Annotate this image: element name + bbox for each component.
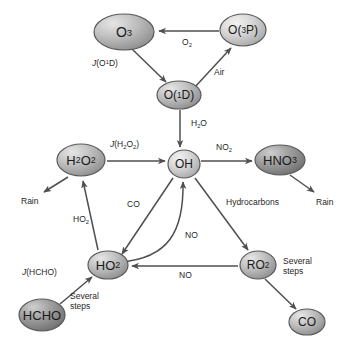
node-ro2 bbox=[240, 251, 276, 279]
edge-label-j-o1d: J(O1D) bbox=[92, 57, 118, 68]
edge-ro2-to-co bbox=[265, 279, 296, 309]
diagram-canvas bbox=[0, 0, 351, 354]
node-o1d bbox=[157, 81, 201, 109]
edge-label-co: CO bbox=[127, 199, 140, 209]
edge-label-several-steps-hcho: Severalsteps bbox=[70, 291, 99, 311]
node-oh bbox=[168, 150, 200, 178]
edge-o1d-to-o3p bbox=[194, 48, 231, 88]
edge-label-j-hcho: J(HCHO) bbox=[22, 267, 57, 277]
edge-oh-to-ro2 bbox=[195, 178, 248, 250]
edge-label-j-h2o2: J(H2O2) bbox=[110, 139, 139, 152]
edge-label-air: Air bbox=[214, 67, 224, 77]
chemistry-cycle-diagram: O3 O(3P) O(1D) H2O2 OH HNO3 HO2 RO2 HCHO… bbox=[0, 0, 351, 354]
edge-oh-to-ho2-co bbox=[122, 178, 173, 254]
edge-label-several-steps-ro2: Severalsteps bbox=[283, 256, 312, 276]
node-h2o2 bbox=[57, 144, 105, 176]
node-layer bbox=[19, 14, 325, 335]
node-hcho bbox=[19, 299, 65, 331]
edge-label-rain-right: Rain bbox=[316, 197, 333, 207]
edge-label-o2: O2 bbox=[182, 37, 192, 50]
node-co bbox=[289, 309, 325, 335]
edge-hno3-to-rain bbox=[290, 175, 314, 192]
node-ho2 bbox=[88, 251, 128, 279]
edge-o3-to-o1d bbox=[132, 49, 166, 82]
edge-h2o2-to-rain bbox=[44, 177, 68, 192]
node-o3p bbox=[220, 14, 266, 46]
edge-label-no-to-oh: NO bbox=[185, 230, 198, 240]
edge-label-rain-left: Rain bbox=[21, 196, 38, 206]
edge-label-no-to-ho2: NO bbox=[179, 270, 192, 280]
edge-label-no2: NO2 bbox=[216, 142, 232, 155]
edge-label-h2o: H2O bbox=[191, 118, 207, 131]
edge-label-ho2: HO2 bbox=[73, 214, 89, 227]
node-hno3 bbox=[255, 145, 305, 175]
edge-ho2-to-oh-no bbox=[121, 182, 183, 262]
edge-label-hydrocarbons: Hydrocarbons bbox=[226, 197, 279, 207]
node-o3 bbox=[94, 14, 154, 50]
